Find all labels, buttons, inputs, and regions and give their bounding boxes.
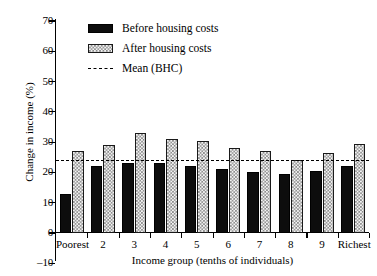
- legend-item-after-housing-costs: After housing costs: [88, 39, 278, 57]
- bar-before-housing-costs: [60, 194, 72, 233]
- bar-group: [275, 21, 306, 233]
- bar-after-housing-costs: [135, 133, 147, 233]
- x-category-label-5: 5: [181, 238, 212, 250]
- mean-reference-line: [56, 160, 369, 161]
- legend-swatch-solid-icon: [88, 24, 113, 33]
- x-axis-title: Income group (tenths of individuals): [56, 254, 369, 266]
- bar-after-housing-costs: [197, 141, 209, 233]
- x-category-label-8: 8: [275, 238, 306, 250]
- y-tick-label-70: 70: [13, 15, 53, 26]
- x-category-label-6: 6: [213, 238, 244, 250]
- bar-before-housing-costs: [185, 166, 197, 233]
- bar-after-housing-costs: [291, 160, 303, 233]
- legend-swatch-checkered-icon: [88, 44, 113, 53]
- bar-chart: –10010203040506070 Poorest23456789Riches…: [0, 0, 377, 276]
- bar-before-housing-costs: [91, 166, 103, 233]
- legend-label-before-housing-costs: Before housing costs: [122, 22, 218, 34]
- bar-group: [338, 21, 369, 233]
- x-category-label-richest: Richest: [338, 238, 369, 250]
- bar-before-housing-costs: [122, 163, 134, 233]
- x-category-label-3: 3: [119, 238, 150, 250]
- bar-before-housing-costs: [310, 171, 322, 233]
- x-category-label-poorest: Poorest: [56, 238, 87, 250]
- bar-group: [56, 21, 87, 233]
- y-tick-label--10: –10: [13, 257, 53, 268]
- x-category-label-4: 4: [150, 238, 181, 250]
- legend-label-mean-bhc: Mean (BHC): [122, 62, 182, 74]
- legend: Before housing costs After housing costs…: [88, 19, 278, 79]
- bar-after-housing-costs: [166, 139, 178, 233]
- legend-item-mean-bhc: Mean (BHC): [88, 59, 278, 77]
- bar-after-housing-costs: [72, 151, 84, 233]
- bar-before-housing-costs: [154, 163, 166, 233]
- bar-after-housing-costs: [103, 145, 115, 233]
- bar-after-housing-costs: [354, 144, 366, 233]
- y-tick-label-0: 0: [13, 227, 53, 238]
- x-category-label-9: 9: [306, 238, 337, 250]
- bar-before-housing-costs: [341, 166, 353, 233]
- bar-before-housing-costs: [247, 172, 259, 233]
- x-category-label-7: 7: [244, 238, 275, 250]
- bar-after-housing-costs: [260, 151, 272, 233]
- bar-group: [306, 21, 337, 233]
- bar-before-housing-costs: [216, 169, 228, 233]
- y-axis-title: Change in income (%): [23, 47, 35, 217]
- legend-swatch-dashed-line-icon: [88, 68, 113, 69]
- legend-item-before-housing-costs: Before housing costs: [88, 19, 278, 37]
- legend-label-after-housing-costs: After housing costs: [122, 42, 211, 54]
- bar-after-housing-costs: [323, 153, 335, 233]
- x-category-label-2: 2: [87, 238, 118, 250]
- bar-before-housing-costs: [279, 174, 291, 233]
